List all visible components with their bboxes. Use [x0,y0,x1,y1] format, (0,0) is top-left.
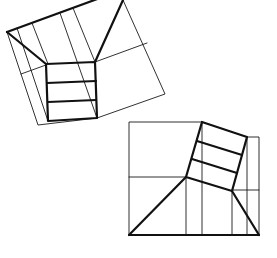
staircase-diagrams [0,0,277,258]
diagram-canvas [0,0,277,258]
stair-flight [46,62,97,121]
stair-tread [48,100,96,102]
splay-wall-left [7,32,46,64]
figure-upright-staircase-plan [129,122,259,235]
stair-flight [186,122,247,191]
top-wall [7,0,100,32]
guide-line [73,8,95,62]
stair-tread [47,81,96,83]
splay-wall-right [232,191,259,235]
stair-tread [197,141,242,155]
guide-line [21,65,46,74]
splay-wall-left [129,177,186,235]
stair-tread [192,159,237,173]
guide-line [17,28,48,121]
splay-wall-right [95,0,123,62]
figure-rotated-staircase-plan [7,0,165,125]
